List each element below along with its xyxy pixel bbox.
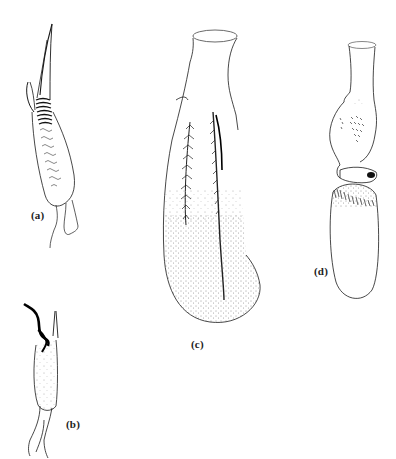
panel-label-c: (c): [191, 338, 204, 350]
panel-label-a: (a): [31, 209, 44, 221]
specimen-c: [160, 30, 270, 330]
specimen-b: [24, 304, 58, 458]
spine-cluster: [340, 116, 364, 142]
panel-label-b: (b): [66, 418, 80, 430]
figure-drawings: [0, 0, 396, 459]
scientific-figure: (a) (b) (c) (d): [0, 0, 396, 459]
specimen-d: [325, 42, 385, 299]
panel-label-d: (d): [314, 265, 328, 277]
